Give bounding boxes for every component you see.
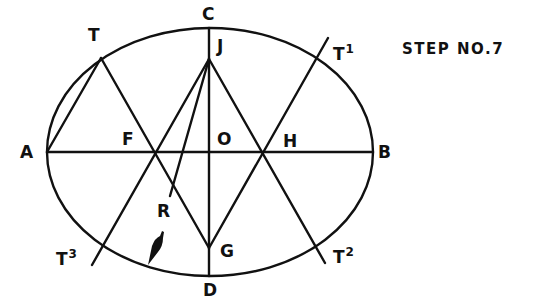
label-T1: T1	[333, 43, 354, 63]
chord-A-T	[47, 58, 101, 152]
label-T1-base: T	[333, 44, 345, 64]
label-T2: T2	[333, 246, 354, 266]
label-T3: T3	[56, 248, 77, 268]
label-T1-superscript: 1	[346, 42, 354, 56]
label-F: F	[122, 131, 134, 148]
label-T: T	[88, 27, 100, 44]
line-J-T3	[92, 59, 209, 265]
label-B: B	[378, 144, 391, 161]
label-H: H	[283, 133, 297, 150]
label-T2-base: T	[333, 247, 345, 267]
label-T3-base: T	[56, 249, 68, 269]
line-J-T2	[209, 59, 325, 263]
label-R: R	[157, 203, 170, 220]
step-title: STEP NO.7	[402, 40, 504, 58]
label-J: J	[217, 38, 223, 55]
pencil-icon	[148, 231, 164, 265]
label-A: A	[20, 144, 33, 161]
label-O: O	[217, 131, 231, 148]
line-J-R	[170, 59, 209, 196]
label-G: G	[220, 243, 234, 260]
label-D: D	[203, 282, 217, 299]
label-T2-superscript: 2	[346, 245, 354, 259]
label-T3-superscript: 3	[69, 247, 77, 261]
label-C: C	[202, 6, 214, 23]
